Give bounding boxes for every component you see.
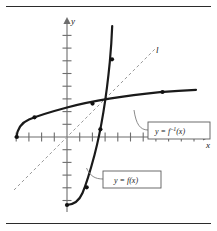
f-inverse-point-marker [32, 115, 36, 119]
inverse-callout-suffix: (x) [176, 127, 185, 136]
y-axis-arrowhead [63, 17, 70, 24]
bottom-horizontal-rule [6, 223, 211, 224]
x-axis-label: x [205, 140, 210, 150]
inverse-function-callout: y = f–1(x) [134, 110, 210, 139]
inverse-callout-leader [134, 110, 148, 130]
figure-root: x y l y = f–1(x) [0, 0, 217, 231]
f-inverse-point-marker [160, 90, 164, 94]
f-inverse-point-marker [15, 135, 19, 139]
identity-line [14, 49, 155, 190]
y-axis-label: y [70, 16, 75, 26]
f-inverse-point-marker [90, 102, 94, 106]
f-point-marker [98, 127, 102, 131]
inverse-callout-text: y = f–1(x) [154, 126, 185, 136]
function-callout: y = f(x) [87, 168, 162, 188]
inverse-callout-exponent: –1 [169, 126, 176, 132]
f-point-marker [85, 185, 89, 189]
f-point-marker [65, 203, 69, 207]
top-horizontal-rule [6, 6, 211, 7]
identity-line-label: l [156, 45, 159, 55]
f-point-marker [110, 57, 114, 61]
graph-canvas: x y l y = f–1(x) [0, 10, 217, 220]
function-callout-text: y = f(x) [113, 176, 138, 185]
